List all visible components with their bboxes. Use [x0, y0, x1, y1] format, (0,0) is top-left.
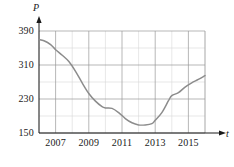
axis-arrowheads	[36, 16, 226, 136]
price-time-line-chart: P t 150230310390 20072009201120132015	[0, 0, 234, 167]
x-tick-label-2015: 2015	[168, 137, 208, 148]
y-tick-label-150: 150	[4, 127, 34, 138]
y-axis-arrow	[36, 16, 41, 23]
y-tick-label-310: 310	[4, 59, 34, 70]
y-tick-label-390: 390	[4, 25, 34, 36]
x-axis-title: t	[226, 128, 229, 139]
x-axis-arrow	[219, 130, 226, 135]
y-tick-label-230: 230	[4, 93, 34, 104]
y-axis-title: P	[33, 2, 39, 13]
